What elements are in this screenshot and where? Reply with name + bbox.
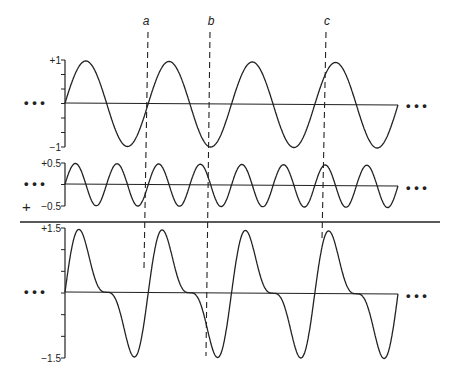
marker-label-c: c	[324, 14, 330, 28]
tick-label-top-harmonic: +0.5	[41, 158, 61, 169]
panel-fundamental	[61, 60, 398, 148]
tick-label-top-sum: +1.5	[41, 223, 61, 234]
ellipsis-right-sum: • • •	[406, 288, 427, 303]
ellipsis-left-harmonic: • • •	[24, 176, 45, 191]
marker-line-b	[206, 32, 210, 356]
tick-label-bottom-fundamental: −1	[50, 142, 62, 153]
ellipsis-right-fundamental: • • •	[406, 98, 427, 113]
ellipsis-right-harmonic: • • •	[406, 180, 427, 195]
tick-label-bottom-harmonic: −0.5	[41, 201, 61, 212]
panel-sum	[61, 228, 398, 359]
marker-label-a: a	[143, 14, 150, 28]
marker-line-a	[144, 32, 148, 268]
tick-label-top-fundamental: +1	[50, 55, 62, 66]
plus-sign: +	[22, 198, 31, 215]
ellipsis-left-fundamental: • • •	[24, 95, 45, 110]
panel-second-harmonic	[61, 163, 398, 208]
ellipsis-left-sum: • • •	[24, 284, 45, 299]
marker-line-c	[322, 32, 326, 240]
marker-lines	[144, 32, 326, 356]
marker-label-b: b	[208, 14, 215, 28]
waveform-diagram: +1 −1 +0.5 −0.5 + +1.5 −1.5 • • • • • • …	[0, 0, 462, 382]
tick-label-bottom-sum: −1.5	[41, 353, 61, 364]
